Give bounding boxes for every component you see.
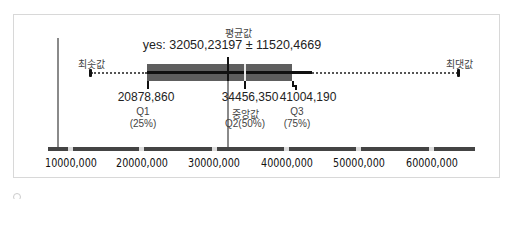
q1-pct: (25%) <box>130 118 157 129</box>
axis-tick <box>284 147 289 151</box>
corner-circle-icon <box>13 193 21 199</box>
lower-whisker <box>91 72 147 74</box>
x-axis <box>48 147 475 151</box>
median-line <box>244 64 246 81</box>
axis-tick <box>356 147 361 151</box>
mean-value-text: yes: 32050,23197 ± 11520,4669 <box>143 38 321 52</box>
y-axis-line <box>57 38 59 148</box>
median-name: Q2(50%) <box>225 118 265 129</box>
axis-tick <box>68 147 73 151</box>
x-tick-label: 60000,000 <box>406 155 458 170</box>
max-marker <box>457 69 460 77</box>
q1-tick <box>147 81 149 89</box>
axis-tick <box>212 147 217 151</box>
upper-whisker <box>312 72 458 74</box>
center-line <box>147 71 312 74</box>
q1-value: 20878,860 <box>118 90 175 104</box>
x-tick-label: 50000,000 <box>333 155 385 170</box>
axis-tick <box>139 147 144 151</box>
min-marker <box>89 69 92 77</box>
median-value: 34456,350 <box>222 90 279 104</box>
x-tick-label: 40000,000 <box>261 155 313 170</box>
x-tick-label: 20000,000 <box>116 155 168 170</box>
x-tick-label: 10000,000 <box>45 155 97 170</box>
q3-pct: (75%) <box>284 118 311 129</box>
q3-name: Q3 <box>290 106 303 117</box>
q1-name: Q1 <box>136 106 149 117</box>
axis-tick <box>429 147 434 151</box>
x-tick-label: 30000,000 <box>188 155 240 170</box>
q3-value: 41004,190 <box>280 90 337 104</box>
mean-marker <box>227 57 229 81</box>
median-tick <box>244 81 246 89</box>
